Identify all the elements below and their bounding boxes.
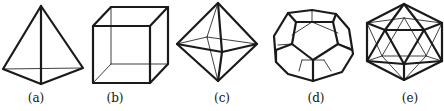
icosahedron-drawing [367, 4, 442, 80]
panel-label-d: (d) [307, 91, 324, 105]
panel-label-c: (c) [214, 91, 230, 105]
panel-label-b: (b) [106, 91, 123, 105]
octahedron-drawing [177, 3, 257, 81]
dodecahedron-drawing [274, 10, 353, 81]
tetrahedron-drawing [3, 6, 83, 84]
cube-drawing [93, 7, 168, 83]
panel-label-a: (a) [28, 91, 45, 105]
panel-label-e: (e) [402, 91, 418, 105]
